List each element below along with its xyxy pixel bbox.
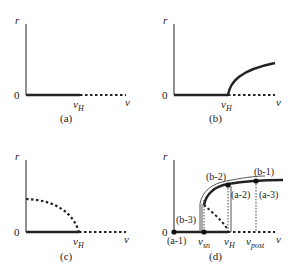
x-axis-label: v: [276, 96, 281, 108]
bifurcation-diagram: r 0 vH v (a) r 0 vH v (b) r 0 vH v (c): [0, 0, 294, 276]
tick-vsn: vsn: [198, 235, 210, 250]
tick-vH: vH: [221, 98, 233, 113]
label-a2: (a-2): [231, 189, 250, 201]
origin-label: 0: [14, 89, 20, 101]
unstable-cycle-branch: [26, 199, 79, 232]
panel-b: r 0 vH v (b): [162, 14, 281, 125]
y-axis-label: r: [15, 150, 20, 162]
tick-vH: vH: [73, 98, 85, 113]
unstable-cycle: [204, 205, 228, 230]
panel-c: r 0 vH v (c): [14, 150, 129, 263]
x-axis-label: v: [124, 233, 129, 245]
tick-vH: vH: [73, 235, 85, 250]
panel-a: r 0 vH v (a): [14, 14, 130, 125]
x-axis-label: v: [276, 233, 281, 245]
origin-label: 0: [162, 89, 168, 101]
caption-b: (b): [209, 112, 222, 125]
y-axis-label: r: [15, 14, 20, 26]
origin-label: 0: [14, 226, 20, 238]
label-b2: (b-2): [206, 171, 226, 183]
label-a3: (a-3): [259, 189, 278, 201]
label-b3: (b-3): [176, 214, 196, 226]
label-b1: (b-1): [254, 166, 274, 178]
caption-a: (a): [60, 112, 73, 125]
tick-vpost: vpost: [246, 235, 265, 250]
tick-vH: vH: [224, 235, 236, 250]
y-axis-label: r: [163, 150, 168, 162]
point-a3: [253, 178, 258, 183]
x-axis-label: v: [125, 96, 130, 108]
limit-cycle-branch: [228, 63, 275, 95]
y-axis-label: r: [163, 14, 168, 26]
point-a1: [171, 229, 176, 234]
caption-c: (c): [60, 250, 73, 263]
caption-d: (d): [209, 250, 222, 263]
point-a2: [225, 182, 230, 187]
panel-d: r 0 (a-1) (a-2) (a-3) (b-1) (b-2) (b-3) …: [162, 150, 283, 263]
label-a1: (a-1): [167, 235, 186, 247]
point-vsn: [201, 229, 206, 234]
